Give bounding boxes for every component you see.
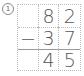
- grid-cell: 8: [39, 5, 60, 27]
- problem-number-badge: 1: [2, 3, 14, 15]
- grid-cell: [18, 5, 39, 27]
- minuend-row: 8 2: [18, 5, 80, 28]
- subtrahend-row: − 3 7: [18, 27, 80, 50]
- subtraction-grid: 8 2 − 3 7 4 5: [17, 4, 81, 71]
- grid-cell: 2: [59, 5, 80, 27]
- grid-cell: 4: [39, 49, 60, 71]
- difference-row: 4 5: [18, 49, 80, 71]
- grid-cell: [18, 49, 39, 71]
- minus-sign: −: [18, 27, 39, 49]
- grid-cell: 5: [59, 49, 80, 71]
- grid-cell: 7: [59, 27, 80, 49]
- grid-cell: 3: [39, 27, 60, 49]
